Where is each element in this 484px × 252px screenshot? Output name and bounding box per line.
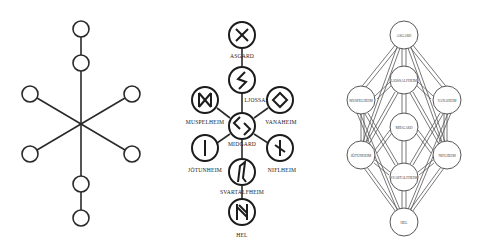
node-label: ASGARD — [397, 34, 412, 38]
node-circle — [22, 86, 38, 102]
plain-star-diagram — [22, 21, 140, 226]
node-label: VANAHEIM — [437, 99, 457, 103]
node-hel: HEL — [229, 199, 255, 238]
node-label: LJOSSALFHEIM — [391, 79, 418, 83]
node-circle — [124, 146, 140, 162]
node-vanaheim: VANAHEIM — [265, 87, 296, 125]
node-label: JÖTUNHEIM — [188, 167, 222, 173]
node-label: JÖTUNHEIM — [351, 153, 372, 158]
node-label: MIDGARD — [395, 126, 413, 130]
node-circle — [73, 55, 89, 71]
runic-tree-diagram: ASGARD LJOSSALFHEIM MUSPELHEIM VANAHEIM — [186, 22, 297, 238]
edge — [254, 134, 268, 143]
node-label: HEL — [236, 232, 248, 238]
node-midgard: MIDGARD — [228, 113, 256, 147]
node-muspelheim: MUSPELHEIM — [186, 87, 224, 125]
node-label: SVARTALFHEIM — [220, 189, 264, 195]
node-niflheim: NIFLHEIM — [267, 135, 296, 173]
node-jotunheim: JÖTUNHEIM — [188, 135, 222, 173]
node-label: NIFLHEIM — [268, 167, 296, 173]
node-asgard: ASGARD — [229, 22, 255, 59]
node-label: SVARTALFHEIM — [391, 176, 419, 180]
node-circle — [124, 86, 140, 102]
connected-lattice-diagram: ASGARD LJOSSALFHEIM MUSPELHEIM VANAHEIM … — [347, 21, 461, 236]
node-circle — [22, 146, 38, 162]
node-circle — [73, 176, 89, 192]
node-circle — [73, 210, 89, 226]
node-label: NIFLHEIM — [438, 154, 456, 158]
world-tree-figure: ASGARD LJOSSALFHEIM MUSPELHEIM VANAHEIM — [0, 0, 484, 252]
edge — [217, 108, 230, 118]
node-label: MIDGARD — [228, 141, 256, 147]
node-label: MUSPELHEIM — [186, 119, 224, 125]
node-circle — [73, 21, 89, 37]
edge — [254, 108, 268, 118]
node-label: VANAHEIM — [265, 119, 296, 125]
node-label: HEL — [401, 221, 408, 225]
node-label: ASGARD — [230, 53, 254, 59]
node-label: MUSPELHEIM — [349, 99, 373, 103]
node-svartalfheim: SVARTALFHEIM — [220, 159, 264, 195]
